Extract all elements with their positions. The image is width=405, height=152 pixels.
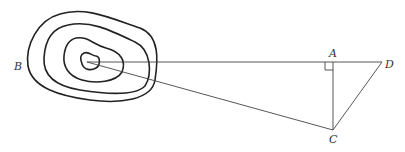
- label-b: B: [13, 60, 22, 73]
- line-c-to-d: [333, 62, 382, 130]
- right-angle-marker: [325, 62, 333, 70]
- label-d: D: [384, 58, 394, 71]
- contour-inner: [81, 53, 100, 70]
- contour-third: [64, 38, 124, 82]
- line-summit-to-c: [87, 62, 333, 130]
- contour-second: [44, 24, 149, 94]
- diagram-canvas: B A D C: [0, 0, 405, 152]
- label-a: A: [328, 47, 337, 60]
- label-c: C: [329, 133, 338, 146]
